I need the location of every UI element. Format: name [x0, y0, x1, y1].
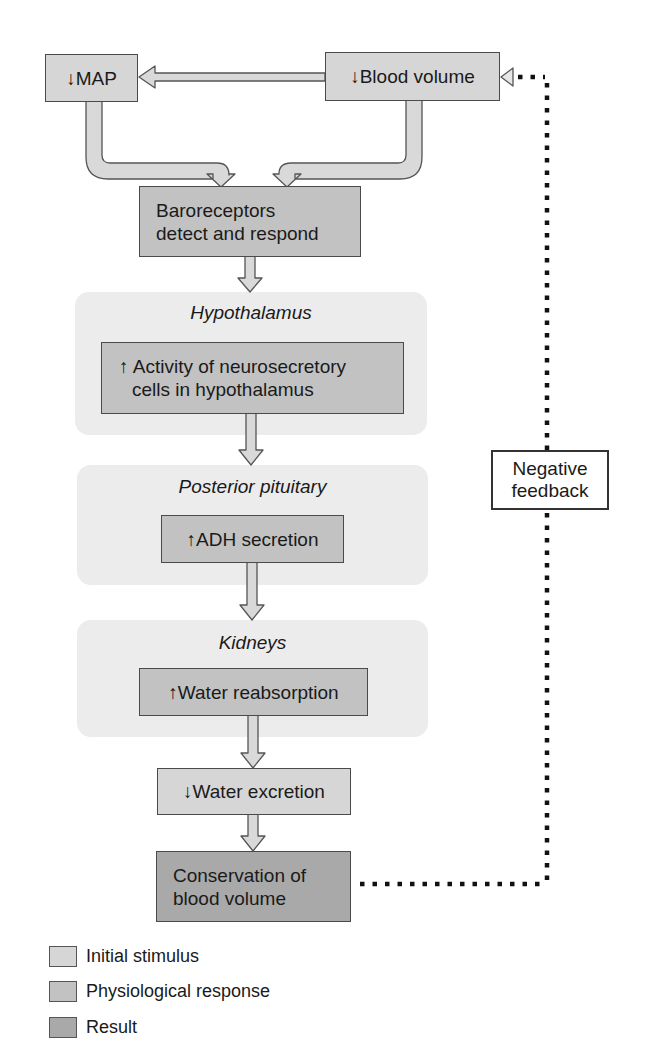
node-baroreceptors: Baroreceptors detect and respond [139, 186, 361, 257]
legend-label: Physiological response [86, 981, 270, 1002]
node-baroreceptors-line2: detect and respond [156, 222, 319, 245]
node-water-excretion: ↓Water excretion [157, 768, 351, 815]
node-adh-secretion: ↑ADH secretion [161, 515, 344, 563]
legend-swatch-result [49, 1017, 77, 1038]
legend-label: Initial stimulus [86, 946, 199, 967]
down-arrow-icon: ↓ [350, 65, 360, 88]
legend-item-initial-stimulus: Initial stimulus [49, 945, 199, 967]
node-map: ↓MAP [45, 54, 138, 102]
up-arrow-icon: ↑ [119, 356, 129, 377]
down-arrow-icon: ↓ [66, 67, 76, 90]
legend-item-physiological-response: Physiological response [49, 980, 270, 1002]
node-adh-secretion-label: ADH secretion [196, 528, 319, 551]
node-conservation-line2: blood volume [173, 887, 306, 910]
arrow-blood-volume-to-map [139, 66, 325, 88]
arrow-blood-volume-to-baroreceptors [273, 100, 422, 187]
legend-swatch-initial-stimulus [49, 946, 77, 967]
arrow-adh-to-water-reabsorption [240, 562, 264, 620]
arrow-water-excretion-to-conservation [241, 814, 265, 851]
node-baroreceptors-line1: Baroreceptors [156, 199, 319, 222]
up-arrow-icon: ↑ [168, 681, 178, 704]
node-hypothalamus-activity: ↑ Activity of neurosecretory cells in hy… [101, 342, 404, 414]
legend-swatch-physiological-response [49, 981, 77, 1002]
node-map-label: MAP [76, 67, 117, 90]
node-hypothalamus-activity-line1: Activity of neurosecretory [133, 356, 346, 377]
negative-feedback-line2: feedback [511, 480, 588, 502]
down-arrow-icon: ↓ [183, 780, 193, 803]
node-hypothalamus-activity-line2: cells in hypothalamus [119, 378, 346, 401]
node-water-reabsorption-label: Water reabsorption [178, 681, 339, 704]
legend-item-result: Result [49, 1016, 137, 1038]
negative-feedback-label: Negative feedback [491, 450, 609, 510]
negative-feedback-line1: Negative [511, 458, 588, 480]
node-conservation-line1: Conservation of [173, 864, 306, 887]
node-water-reabsorption: ↑Water reabsorption [139, 668, 368, 716]
arrow-baroreceptors-to-hypothalamus [238, 256, 262, 292]
node-blood-volume: ↓Blood volume [325, 52, 500, 101]
feedback-arrowhead [501, 68, 513, 86]
node-water-excretion-label: Water excretion [193, 780, 325, 803]
legend-label: Result [86, 1017, 137, 1038]
node-conservation: Conservation of blood volume [156, 851, 351, 922]
arrow-water-reabsorption-to-excretion [241, 715, 265, 768]
arrow-hypothalamus-to-adh [239, 413, 263, 465]
up-arrow-icon: ↑ [187, 528, 197, 551]
node-blood-volume-label: Blood volume [360, 65, 475, 88]
